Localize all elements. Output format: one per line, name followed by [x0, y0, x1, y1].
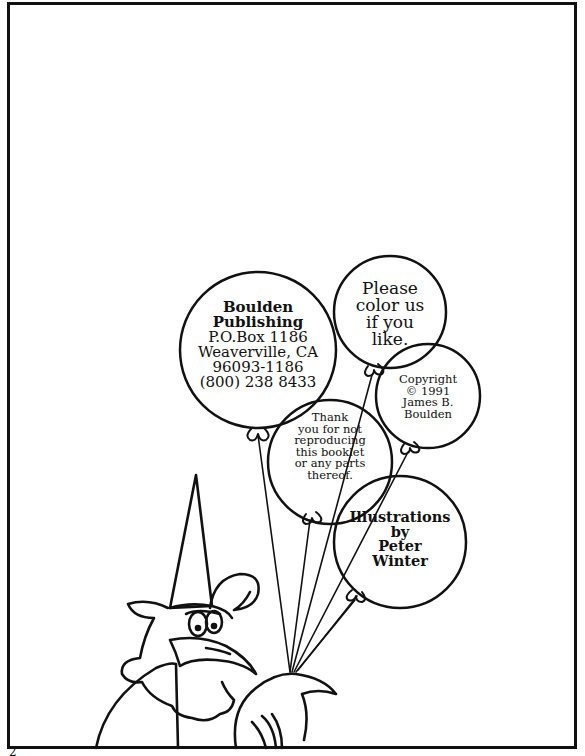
page-number: 2: [9, 747, 17, 756]
illustrations-text: Illustrations by Peter Winter: [344, 510, 456, 568]
color-us-text: Please color us if you like.: [345, 280, 435, 348]
color-us-line: like.: [345, 331, 435, 348]
publisher-phone: (800) 238 8433: [188, 375, 328, 390]
copyright-text: Copyright © 1991 James B. Boulden: [388, 374, 468, 420]
thank-you-text: Thank you for not reproducing this bookl…: [278, 412, 382, 481]
illustrations-line: Winter: [344, 554, 456, 569]
booklet-page: Boulden Publishing P.O.Box 1186 Weavervi…: [0, 0, 585, 756]
copyright-line: Boulden: [388, 409, 468, 421]
thank-you-line: thereof.: [278, 470, 382, 482]
publisher-text: Boulden Publishing P.O.Box 1186 Weavervi…: [188, 300, 328, 390]
